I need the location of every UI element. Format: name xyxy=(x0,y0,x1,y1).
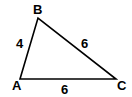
side-length-bc: 6 xyxy=(81,36,88,51)
triangle-abc xyxy=(20,18,116,79)
vertex-label-a: A xyxy=(12,78,22,93)
triangle-diagram: A B C 4 6 6 xyxy=(0,0,132,97)
side-length-ab: 4 xyxy=(16,36,24,51)
vertex-label-c: C xyxy=(117,78,127,93)
side-length-ac: 6 xyxy=(61,82,68,97)
triangle-canvas: A B C 4 6 6 xyxy=(0,0,132,97)
vertex-label-b: B xyxy=(33,2,42,17)
